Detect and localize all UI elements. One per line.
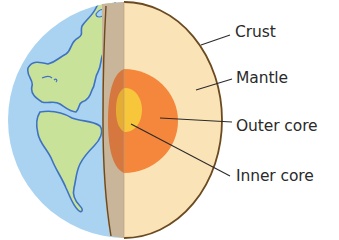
- label-mantle: Mantle: [236, 71, 288, 87]
- label-inner-core: Inner core: [236, 169, 314, 185]
- label-crust: Crust: [235, 25, 276, 41]
- label-outer-core: Outer core: [236, 119, 318, 135]
- earth-layers-diagram: Crust Mantle Outer core Inner core: [0, 0, 339, 240]
- crust-leader-line: [201, 35, 230, 45]
